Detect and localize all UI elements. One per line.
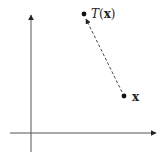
diagram-canvas: T(x) x bbox=[0, 0, 166, 163]
label-T-of-x: T(x) bbox=[91, 8, 116, 20]
mapping-arrow bbox=[86, 19, 122, 92]
point-Tx bbox=[82, 12, 87, 17]
label-func: T bbox=[91, 7, 99, 21]
label-paren-close: ) bbox=[111, 7, 116, 21]
label-x: x bbox=[132, 91, 139, 103]
diagram-svg bbox=[0, 0, 166, 163]
point-x bbox=[122, 94, 127, 99]
label-arg: x bbox=[104, 7, 111, 21]
